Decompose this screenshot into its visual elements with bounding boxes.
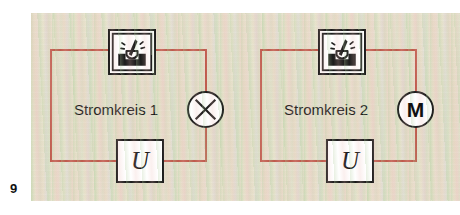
circuit-2-wire-top-right xyxy=(366,49,417,51)
circuit-2-motor[interactable]: M xyxy=(397,91,434,128)
circuit-2-wire-top-left xyxy=(260,49,318,51)
circuit-2-wire-bottom-right xyxy=(374,160,417,162)
motor-letter: M xyxy=(407,99,425,120)
figure-root: U Stromkreis 1 xyxy=(0,0,460,215)
circuit-2-voltage-source[interactable]: U xyxy=(326,139,374,183)
figure-number: 9 xyxy=(10,181,17,196)
circuit-2-label: Stromkreis 2 xyxy=(284,101,368,118)
circuit-2-switch[interactable] xyxy=(318,29,366,75)
rocker-switch-icon xyxy=(320,31,364,73)
diagram-panel: U Stromkreis 1 xyxy=(31,13,460,201)
circuit-2-wire-bottom-left xyxy=(260,160,326,162)
circuit-2-wire-left xyxy=(260,49,262,161)
circuit-2: M U Stromkreis 2 xyxy=(31,13,460,201)
